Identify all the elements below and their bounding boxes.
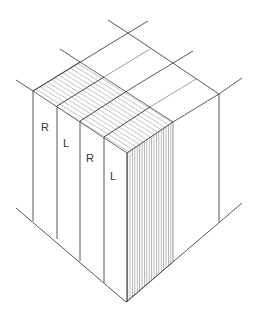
diagram-canvas: R L R L <box>0 0 258 316</box>
layered-block-diagram: R L R L <box>0 0 258 316</box>
label-l-2: L <box>110 170 116 182</box>
label-r-2: R <box>86 152 94 164</box>
label-r-1: R <box>41 121 49 133</box>
label-l-1: L <box>63 137 69 149</box>
front-face-hatched <box>127 122 173 302</box>
